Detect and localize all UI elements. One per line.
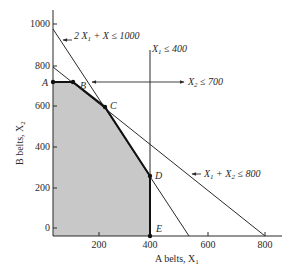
constraint-label-x1-x2-800: X1 + X2 ≤ 800: [203, 168, 260, 181]
y-tick-0: 0: [45, 222, 50, 233]
corner-point-d: [148, 174, 152, 178]
corner-label-b: B: [80, 80, 86, 91]
y-tick-800: 800: [35, 60, 50, 71]
y-axis-label: B belts, X2: [14, 121, 27, 165]
x-tick-200: 200: [92, 239, 107, 250]
x-tick-400: 400: [143, 239, 158, 250]
corner-point-a: [51, 80, 55, 84]
constraint-label-x1-400: X1 ≤ 400: [151, 43, 187, 56]
constraint-label-x2-700: X2 ≤ 700: [187, 76, 223, 89]
corner-label-e: E: [155, 223, 162, 234]
corner-point-e: [148, 234, 152, 238]
y-tick-600: 600: [35, 100, 50, 111]
corner-label-d: D: [154, 170, 163, 181]
x-tick-800: 800: [258, 239, 273, 250]
corner-label-c: C: [110, 100, 117, 111]
corner-point-c: [103, 105, 107, 109]
constraint-label-2x1-x2-1000: 2 X1 + X ≤ 1000: [74, 30, 139, 43]
y-tick-400: 400: [35, 141, 50, 152]
corner-label-a: A: [41, 77, 49, 88]
corner-point-b: [71, 80, 75, 84]
linear-programming-chart: 1000 800 600 400 200 0 200 400 600 800 A…: [0, 0, 291, 276]
y-tick-labels: 1000 800 600 400 200 0: [30, 18, 50, 233]
x-tick-labels: 200 400 600 800: [92, 239, 273, 250]
x-tick-600: 600: [201, 239, 216, 250]
y-tick-1000: 1000: [30, 18, 50, 29]
x-axis-label: A belts, X1: [155, 253, 199, 266]
y-tick-200: 200: [35, 182, 50, 193]
